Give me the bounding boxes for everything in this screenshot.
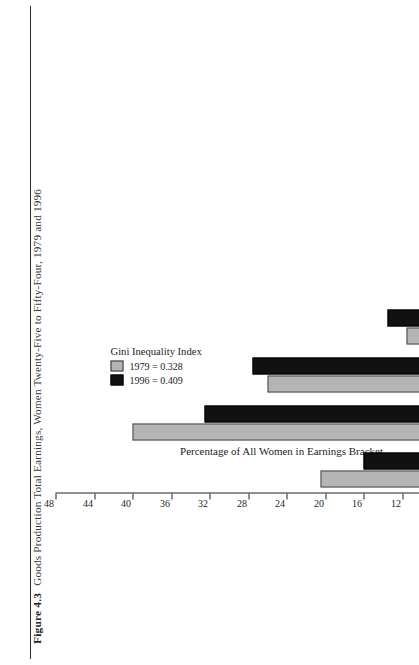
bar-group [56,304,419,348]
plot-wrapper: Percentage of All Women in Earnings Brac… [48,0,418,578]
bar-1979 [320,471,419,488]
value-axis-tick [248,494,249,500]
bar-group [56,447,419,491]
value-axis-tick-label: 24 [251,498,285,509]
value-axis-tick [287,494,288,500]
bar-1996 [253,357,419,374]
bar-group [56,161,419,205]
value-axis-tick [94,494,95,500]
value-axis-tick-label: 44 [59,498,93,509]
value-axis-tick [210,494,211,500]
legend-label-1996: 1996 = 0.409 [130,375,183,386]
value-axis-tick-label: 12 [367,498,401,509]
bar-group [56,18,419,62]
bar-1979 [133,423,419,440]
value-axis-tick-label: 20 [290,498,324,509]
legend-swatch-1979 [111,361,124,372]
value-axis-tick-label: 8 [405,498,419,509]
bar-1996 [388,310,419,327]
bar-group [56,256,419,300]
bar-group [56,113,419,157]
value-axis-tick-label: 36 [136,498,170,509]
value-axis-tick [171,494,172,500]
bar-group [56,66,419,110]
value-axis-tick [133,494,134,500]
value-axis-tick-label: 48 [20,498,54,509]
figure-page: Figure 4.3Goods Production Total Earning… [0,0,419,665]
bar-1996 [364,453,419,470]
legend-swatch-1996 [111,375,124,386]
value-axis-tick [325,494,326,500]
bar-1996 [205,405,419,422]
value-axis-tick-label: 32 [174,498,208,509]
chart-legend: Gini Inequality Index 1979 = 0.328 1996 … [111,346,202,386]
value-axis-tick [56,494,57,500]
value-axis-tick-label: 28 [213,498,247,509]
value-axis-tick [402,494,403,500]
figure-number: Figure 4.3 [31,593,43,644]
figure-caption: Figure 4.3Goods Production Total Earning… [31,4,43,644]
chart-canvas: Percentage of All Women in Earnings Brac… [48,0,418,578]
bar-group [56,0,419,14]
bar-1979 [267,375,419,392]
value-axis-tick-label: 40 [97,498,131,509]
figure-caption-text: Goods Production Total Earnings, Women T… [31,189,43,586]
plot-area [56,0,419,493]
legend-item-1996: 1996 = 0.409 [111,375,202,386]
value-axis-tick-label: 16 [328,498,362,509]
bar-group [56,209,419,253]
bar-group [56,399,419,443]
legend-title: Gini Inequality Index [111,346,202,357]
legend-label-1979: 1979 = 0.328 [130,361,183,372]
bar-1979 [407,328,419,345]
value-axis-tick [364,494,365,500]
legend-item-1979: 1979 = 0.328 [111,361,202,372]
